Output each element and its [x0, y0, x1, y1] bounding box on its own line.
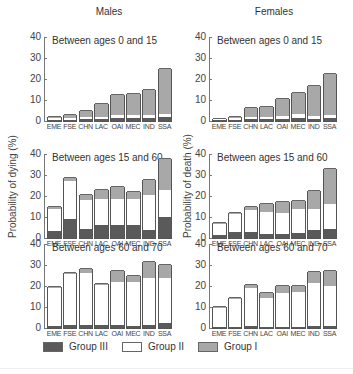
bar-segment-group-ii: [48, 287, 61, 326]
bar-segment-group-iii: [245, 232, 258, 238]
bar-segment-group-iii: [245, 326, 258, 328]
y-tick-label: 20: [186, 190, 206, 201]
bar-segment-group-iii: [127, 326, 140, 328]
bar-segment-group-i: [276, 285, 289, 293]
y-tick-label: 30: [186, 169, 206, 180]
bar-mec: [291, 286, 306, 329]
bar-segment-group-iii: [260, 327, 273, 328]
bar-segment-group-i: [276, 201, 289, 213]
bar-segment-group-ii: [159, 277, 172, 323]
bar-segment-group-iii: [95, 119, 108, 121]
bar-oai: [110, 271, 125, 329]
bar-eme: [47, 117, 62, 122]
y-tick: [44, 37, 47, 38]
bar-segment-group-iii: [159, 117, 172, 121]
bar-segment-group-ii: [324, 285, 337, 326]
y-tick: [209, 58, 212, 59]
y-tick-label: 20: [186, 73, 206, 84]
y-tick-label: 10: [186, 301, 206, 312]
bar-segment-group-i: [111, 270, 124, 282]
bar-ind: [142, 90, 157, 123]
bar-segment-group-iii: [276, 327, 289, 328]
bar-segment-group-iii: [80, 325, 93, 328]
x-tick-label: SSA: [156, 330, 174, 337]
bar-segment-group-ii: [308, 208, 321, 230]
legend-label: Group II: [148, 341, 184, 352]
bar-mec: [291, 93, 306, 122]
bar-segment-group-i: [159, 158, 172, 189]
bar-segment-group-i: [324, 73, 337, 115]
bar-eme: [47, 207, 62, 240]
bar-fse: [63, 115, 78, 122]
bar-segment-group-i: [48, 286, 61, 288]
bar-segment-group-i: [276, 98, 289, 116]
bar-eme: [212, 223, 227, 239]
bar-segment-group-ii: [143, 277, 156, 325]
males-y-axis-label: Probability of dying (%): [7, 135, 18, 238]
bar-segment-group-ii: [95, 284, 108, 325]
y-tick-label: 10: [186, 94, 206, 105]
y-tick-label: 40: [21, 238, 41, 249]
bar-segment-group-i: [324, 168, 337, 205]
bar-segment-group-ii: [292, 208, 305, 233]
bar-segment-group-i: [159, 68, 172, 114]
y-tick-label: 40: [21, 148, 41, 159]
bar-oai: [110, 95, 125, 122]
y-tick: [209, 175, 212, 176]
bar-segment-group-iii: [159, 217, 172, 238]
bar-segment-group-i: [260, 203, 273, 211]
bar-fse: [228, 117, 243, 122]
panel-title: Between ages 0 and 15: [217, 35, 322, 46]
bar-ind: [307, 272, 322, 329]
bar-segment-group-i: [80, 110, 93, 117]
y-tick-label: 40: [186, 238, 206, 249]
bar-segment-group-i: [308, 85, 321, 115]
bar-chn: [79, 195, 94, 239]
bar-segment-group-iii: [64, 219, 77, 238]
y-tick: [209, 217, 212, 218]
bar-mec: [126, 276, 141, 330]
bar-segment-group-i: [260, 106, 273, 116]
bar-eme: [212, 119, 227, 122]
bar-segment-group-iii: [143, 118, 156, 121]
bar-ssa: [323, 74, 338, 122]
bar-segment-group-ii: [127, 281, 140, 326]
bar-segment-group-i: [260, 292, 273, 297]
bar-segment-group-iii: [324, 118, 337, 121]
bar-segment-group-i: [48, 206, 61, 209]
bar-segment-group-iii: [324, 326, 337, 328]
bar-segment-group-i: [229, 297, 242, 299]
bar-segment-group-ii: [324, 203, 337, 228]
bar-ssa: [323, 169, 338, 239]
bar-segment-group-ii: [308, 282, 321, 326]
bar-lac: [94, 284, 109, 329]
bar-segment-group-i: [245, 284, 258, 288]
bar-segment-group-ii: [95, 198, 108, 226]
bar-ind: [142, 262, 157, 329]
bar-segment-group-iii: [111, 325, 124, 328]
bar-segment-group-iii: [64, 120, 77, 121]
bar-lac: [259, 107, 274, 122]
bar-segment-group-ii: [229, 213, 242, 232]
bar-segment-group-i: [127, 93, 140, 115]
y-tick-label: 20: [21, 280, 41, 291]
bar-segment-group-i: [95, 283, 108, 285]
panel-title: Between ages 15 and 60: [217, 152, 328, 163]
bar-segment-group-iii: [80, 119, 93, 121]
y-tick-label: 20: [186, 280, 206, 291]
y-tick-label: 20: [21, 190, 41, 201]
bar-segment-group-i: [229, 212, 242, 214]
bar-oai: [110, 187, 125, 239]
panel-title: Between ages 60 and 70: [217, 242, 328, 253]
bar-segment-group-ii: [276, 292, 289, 327]
bar-segment-group-i: [143, 179, 156, 195]
y-tick: [209, 154, 212, 155]
bar-segment-group-i: [64, 272, 77, 274]
x-tick-label: SSA: [321, 123, 339, 130]
bar-segment-group-i: [48, 116, 61, 118]
bar-segment-group-i: [213, 118, 226, 119]
bar-fse: [228, 298, 243, 329]
bar-segment-group-iii: [276, 234, 289, 238]
bar-mec: [126, 192, 141, 239]
y-tick: [44, 196, 47, 197]
